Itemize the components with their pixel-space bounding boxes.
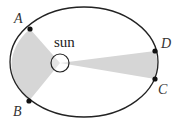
sun-circle	[51, 54, 69, 72]
point-c	[152, 76, 157, 81]
sector-cd	[60, 51, 157, 79]
kepler-diagram: sun A B C D	[0, 0, 180, 124]
label-d: D	[160, 36, 171, 51]
sun-label: sun	[54, 34, 75, 50]
point-a	[27, 26, 32, 31]
label-c: C	[158, 82, 168, 97]
point-b	[26, 98, 31, 103]
label-b: B	[13, 104, 22, 119]
point-d	[152, 48, 157, 53]
label-a: A	[13, 11, 23, 26]
